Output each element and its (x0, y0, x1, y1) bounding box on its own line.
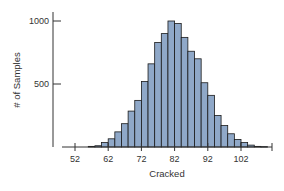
histogram-bar (141, 81, 148, 147)
y-tick-label: 1000 (29, 16, 49, 26)
histogram-bar (175, 24, 182, 147)
x-tick-label: 82 (170, 154, 180, 164)
histogram-bar (161, 34, 168, 147)
y-tick-label: 500 (34, 79, 49, 89)
x-tick-label: 92 (203, 154, 213, 164)
histogram-bar (148, 64, 155, 147)
histogram-chart: 5001000 5262728292102 Cracked # of Sampl… (0, 0, 284, 191)
histogram-bar (228, 134, 235, 147)
histogram-bar (102, 143, 109, 147)
histogram-bar (234, 139, 241, 147)
histogram-bar (188, 51, 195, 147)
histogram-bar (214, 116, 221, 148)
histogram-bar (168, 21, 175, 147)
y-axis-ticks: 5001000 (29, 16, 61, 89)
histogram-bar (128, 111, 135, 147)
histogram-bar (115, 132, 122, 147)
histogram-bar (195, 59, 202, 147)
x-tick-label: 72 (136, 154, 146, 164)
x-tick-label: 52 (70, 154, 80, 164)
histogram-bar (135, 100, 142, 147)
x-tick-label: 102 (233, 154, 248, 164)
histogram-bar (108, 139, 115, 147)
x-tick-label: 62 (103, 154, 113, 164)
histogram-bar (121, 124, 128, 147)
histogram-bar (241, 143, 248, 147)
histogram-bar (181, 37, 188, 147)
histogram-bar (201, 83, 208, 147)
y-axis-label: # of Samples (11, 52, 22, 108)
x-axis-label: Cracked (149, 168, 184, 179)
histogram-bars (88, 21, 267, 147)
histogram-bar (221, 126, 228, 147)
histogram-bar (208, 95, 215, 147)
histogram-bar (155, 42, 162, 147)
